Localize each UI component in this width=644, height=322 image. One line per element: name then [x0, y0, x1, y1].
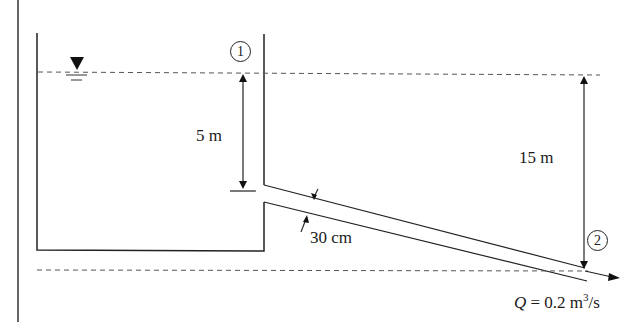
flow-value: = 0.2 m [526, 293, 583, 312]
arrow-down-icon [239, 181, 247, 189]
datum-line [37, 270, 588, 271]
arrow-down-icon [580, 261, 588, 269]
pipe-upper-wall [264, 185, 585, 268]
point-2-label: 2 [594, 233, 601, 248]
arrow-right-icon [608, 273, 620, 281]
point-1-marker: 1 [230, 41, 251, 62]
pipe-diameter-label: 30 cm [310, 228, 352, 248]
outflow-arrow-line [585, 271, 612, 277]
point-1-label: 1 [237, 44, 244, 59]
arrow-up-icon [580, 76, 588, 84]
total-head-label: 15 m [519, 148, 553, 168]
water-level-line [38, 72, 600, 75]
entrance-depth-label: 5 m [196, 126, 222, 146]
arrow-up-icon [239, 74, 247, 82]
flow-unit-tail: /s [589, 293, 600, 312]
point-2-marker: 2 [587, 230, 608, 251]
water-surface-icon [70, 57, 84, 70]
arrow-up-icon [303, 215, 309, 223]
flow-rate-label: Q = 0.2 m3/s [514, 291, 600, 313]
tank-walls [37, 33, 264, 251]
flow-symbol: Q [514, 293, 526, 312]
